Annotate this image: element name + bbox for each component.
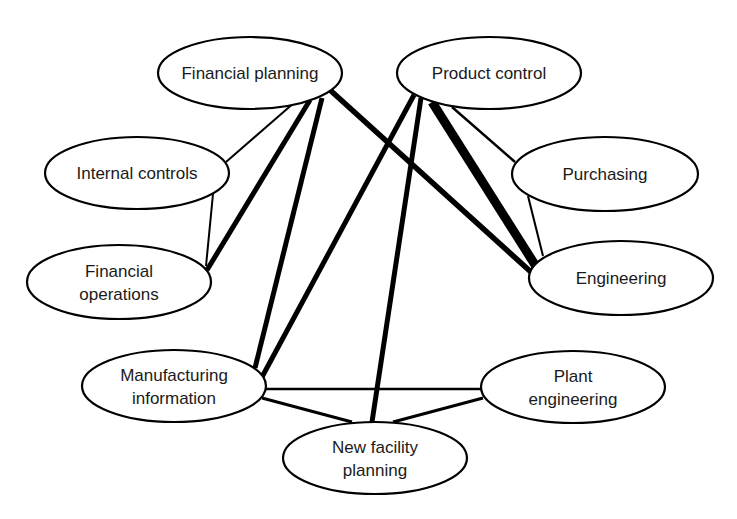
node-label: Manufacturing <box>120 366 228 385</box>
node-label: Internal controls <box>77 164 198 183</box>
node-purchasing: Purchasing <box>512 137 698 211</box>
network-diagram: Financial planningProduct controlInterna… <box>0 0 737 519</box>
nodes-layer: Financial planningProduct controlInterna… <box>27 37 713 494</box>
edge-financial-planning-to-engineering <box>330 90 531 272</box>
node-label: Purchasing <box>562 165 647 184</box>
node-manufacturing-information: Manufacturinginformation <box>82 350 266 422</box>
node-ellipse <box>283 422 467 494</box>
node-label: planning <box>343 461 407 480</box>
node-label: Plant <box>554 367 593 386</box>
node-ellipse <box>82 350 266 422</box>
node-label: engineering <box>529 390 618 409</box>
edge-purchasing-to-engineering <box>528 196 543 256</box>
node-new-facility-planning: New facilityplanning <box>283 422 467 494</box>
node-plant-engineering: Plantengineering <box>481 351 665 423</box>
node-label: New facility <box>332 438 418 457</box>
node-label: Financial <box>85 262 153 281</box>
node-label: Engineering <box>576 269 667 288</box>
node-engineering: Engineering <box>529 241 713 315</box>
node-financial-planning: Financial planning <box>158 37 342 109</box>
edge-plant-engineering-to-new-facility-planning <box>393 398 483 422</box>
edge-financial-planning-to-internal-controls <box>226 102 295 162</box>
node-ellipse <box>481 351 665 423</box>
node-label: information <box>132 389 216 408</box>
node-label: operations <box>79 285 158 304</box>
node-financial-operations: Financialoperations <box>27 245 211 319</box>
edge-manufacturing-information-to-new-facility-planning <box>262 398 352 422</box>
node-product-control: Product control <box>397 37 581 109</box>
edge-internal-controls-to-financial-operations <box>206 194 213 266</box>
node-label: Product control <box>432 64 546 83</box>
node-label: Financial planning <box>181 64 318 83</box>
node-ellipse <box>27 245 211 319</box>
node-internal-controls: Internal controls <box>45 137 229 209</box>
